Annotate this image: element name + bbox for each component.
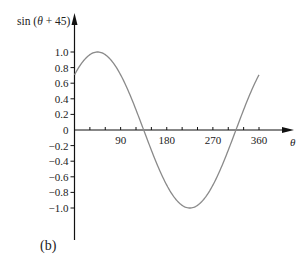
- y-tick-label: 1.0: [55, 46, 69, 58]
- y-axis-arrow-icon: [72, 13, 78, 25]
- y-tick-label: −0.2: [49, 140, 69, 152]
- y-tick-label: 0.8: [55, 62, 69, 74]
- x-tick-label: 360: [251, 134, 268, 146]
- x-tick-label: 180: [159, 134, 176, 146]
- y-tick-label: −0.4: [49, 155, 69, 167]
- sine-chart: 901802703601.00.80.60.40.20−0.2−0.4−0.6−…: [0, 0, 307, 255]
- x-tick-label: 90: [115, 134, 127, 146]
- x-tick-label: 270: [205, 134, 222, 146]
- x-axis-label: θ: [290, 136, 296, 148]
- axes: 901802703601.00.80.60.40.20−0.2−0.4−0.6−…: [49, 13, 294, 240]
- y-tick-label: 0.4: [55, 93, 69, 105]
- x-axis-arrow-icon: [282, 127, 294, 133]
- figure-caption: (b): [40, 238, 57, 254]
- y-tick-label: 0: [63, 124, 69, 136]
- y-tick-label: −0.6: [49, 171, 69, 183]
- y-axis-label: sin (θ + 45): [17, 15, 71, 28]
- y-tick-label: 0.2: [55, 108, 69, 120]
- y-tick-label: −0.8: [49, 186, 69, 198]
- y-tick-label: −1.0: [49, 202, 69, 214]
- y-tick-label: 0.6: [55, 77, 69, 89]
